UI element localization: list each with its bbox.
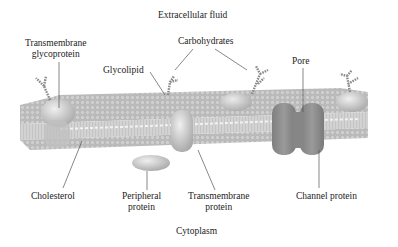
label-line: Peripheral	[122, 191, 161, 202]
label-transmembrane-glycoprotein: Transmembrane glycoprotein	[25, 38, 86, 60]
region-cytoplasm: Cytoplasm	[176, 226, 217, 237]
transmembrane-protein	[171, 110, 193, 152]
label-transmembrane-protein: Transmembrane protein	[188, 191, 249, 213]
label-pore: Pore	[292, 56, 309, 67]
peripheral-protein	[132, 155, 170, 171]
region-extracellular-fluid: Extracellular fluid	[158, 10, 227, 21]
label-line: protein	[188, 202, 249, 213]
label-peripheral-protein: Peripheral protein	[122, 191, 161, 213]
label-line: glycoprotein	[25, 49, 86, 60]
label-line: protein	[122, 202, 161, 213]
label-line: Transmembrane	[188, 191, 249, 202]
label-cholesterol: Cholesterol	[31, 191, 75, 202]
label-line: Transmembrane	[25, 38, 86, 49]
label-carbohydrates: Carbohydrates	[178, 36, 233, 47]
label-channel-protein: Channel protein	[296, 191, 357, 202]
label-glycolipid: Glycolipid	[103, 65, 144, 76]
